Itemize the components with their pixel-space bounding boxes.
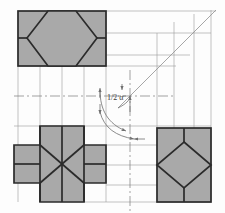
half-angle-label: 1/2 α	[107, 93, 124, 102]
technical-drawing-svg: 1/2 α	[0, 0, 225, 213]
drawing-canvas: 1/2 α	[0, 0, 225, 213]
top-left-view	[18, 11, 106, 66]
bottom-right-view	[157, 128, 211, 202]
